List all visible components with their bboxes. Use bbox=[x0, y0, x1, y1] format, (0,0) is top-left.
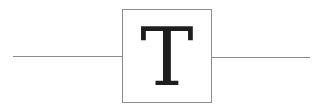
right-divider-line bbox=[211, 57, 310, 58]
left-divider-line bbox=[13, 56, 122, 57]
initial-letter: T bbox=[140, 18, 193, 98]
initial-letter-box: T bbox=[122, 9, 212, 103]
